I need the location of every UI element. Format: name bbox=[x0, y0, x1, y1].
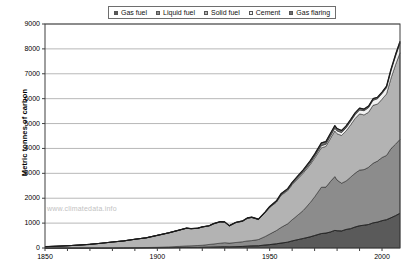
y-tick-label: 6000 bbox=[10, 95, 40, 102]
y-tick-label: 4000 bbox=[10, 144, 40, 151]
y-tick-label: 7000 bbox=[10, 70, 40, 77]
y-tick-label: 9000 bbox=[10, 20, 40, 27]
x-tick-label: 1900 bbox=[142, 253, 172, 260]
legend-item-solid-fuel[interactable]: Solid fuel bbox=[204, 9, 240, 16]
y-tick-label: 8000 bbox=[10, 45, 40, 52]
chart-container: Gas fuel Liquid fuel Solid fuel Cement G… bbox=[0, 0, 412, 274]
x-tick-label: 2000 bbox=[367, 253, 397, 260]
legend-swatch-liquid-fuel bbox=[156, 11, 160, 15]
legend-label-gas-flaring: Gas flaring bbox=[296, 9, 330, 16]
legend-swatch-solid-fuel bbox=[204, 11, 208, 15]
y-tick-label: 2000 bbox=[10, 194, 40, 201]
legend-label-liquid-fuel: Liquid fuel bbox=[163, 9, 195, 16]
watermark-text: www.climatedata.info bbox=[47, 205, 117, 212]
x-tick-label: 1850 bbox=[30, 253, 60, 260]
legend-swatch-gas-fuel bbox=[114, 11, 118, 15]
legend-item-cement[interactable]: Cement bbox=[249, 9, 281, 16]
chart-legend: Gas fuel Liquid fuel Solid fuel Cement G… bbox=[108, 6, 336, 19]
legend-item-gas-fuel[interactable]: Gas fuel bbox=[114, 9, 147, 16]
legend-label-cement: Cement bbox=[256, 9, 281, 16]
legend-swatch-gas-flaring bbox=[289, 11, 293, 15]
y-tick-label: 0 bbox=[10, 244, 40, 251]
y-tick-label: 1000 bbox=[10, 219, 40, 226]
y-tick-label: 3000 bbox=[10, 169, 40, 176]
legend-label-gas-fuel: Gas fuel bbox=[121, 9, 147, 16]
legend-item-liquid-fuel[interactable]: Liquid fuel bbox=[156, 9, 195, 16]
legend-swatch-cement bbox=[249, 11, 253, 15]
legend-label-solid-fuel: Solid fuel bbox=[211, 9, 240, 16]
x-tick-label: 1950 bbox=[255, 253, 285, 260]
y-tick-label: 5000 bbox=[10, 120, 40, 127]
legend-item-gas-flaring[interactable]: Gas flaring bbox=[289, 9, 330, 16]
plot-area bbox=[0, 0, 412, 274]
